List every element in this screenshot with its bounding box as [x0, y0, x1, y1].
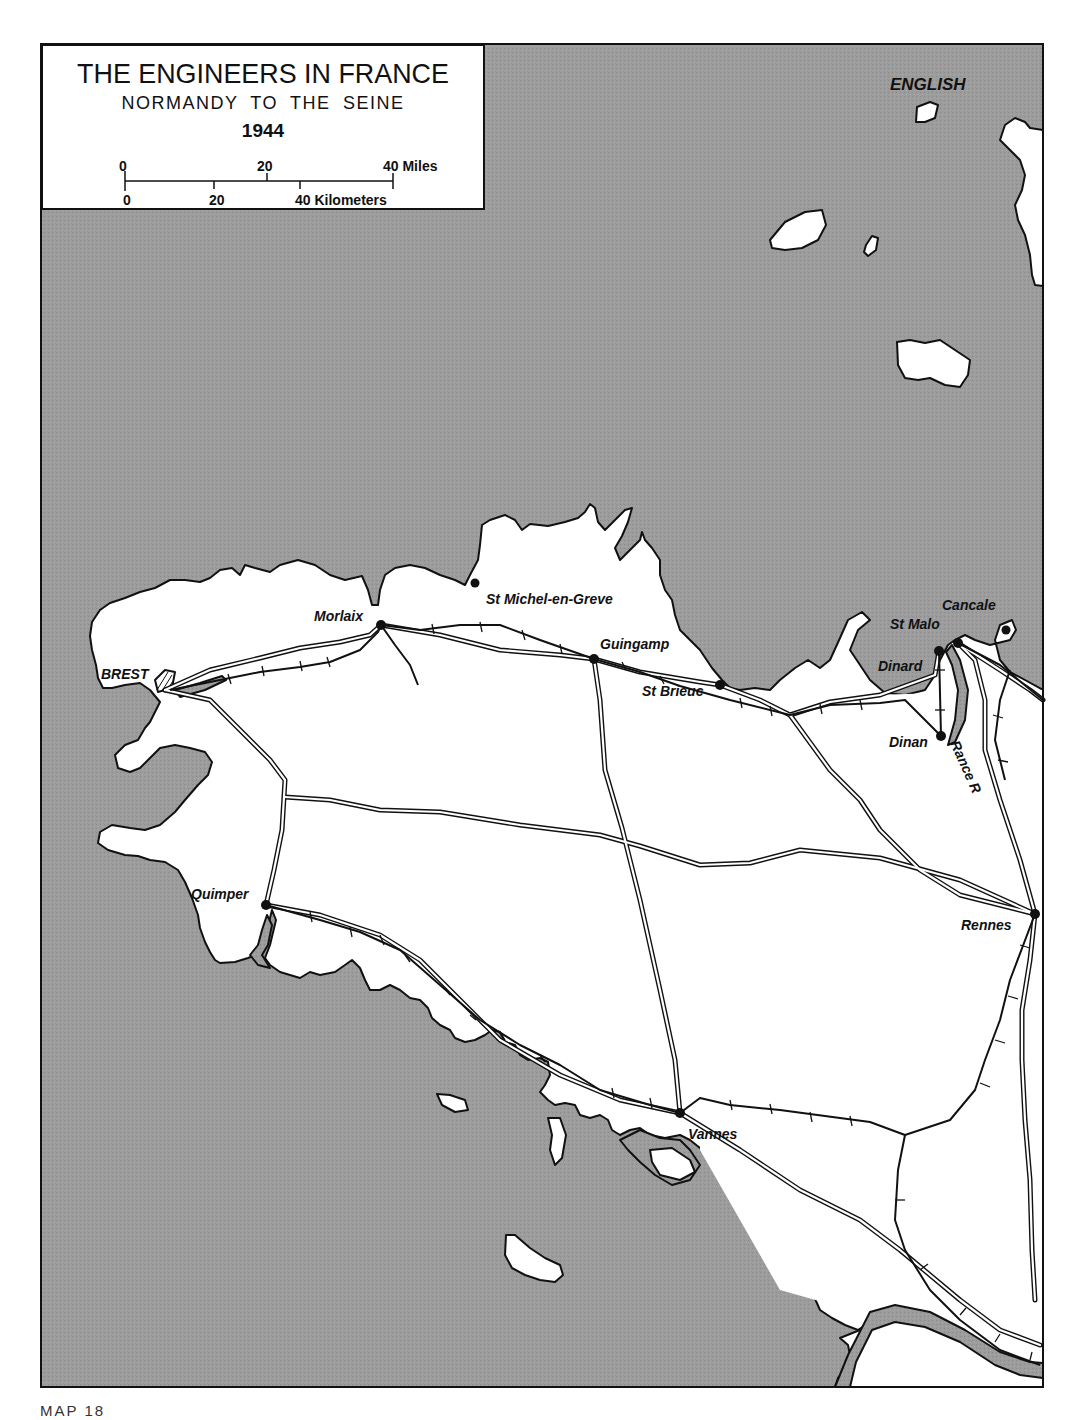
city-label-guingamp: Guingamp [600, 636, 669, 652]
city-dot-st-malo [953, 638, 963, 648]
city-dot-dinard [934, 646, 944, 656]
city-dot-guingamp [589, 654, 599, 664]
city-label-morlaix: Morlaix [314, 608, 363, 624]
city-dot-dinan [936, 731, 946, 741]
scale-km-20: 20 [209, 192, 225, 208]
city-label-dinard: Dinard [878, 658, 922, 674]
city-label-quimper: Quimper [191, 886, 249, 902]
sea-label-english: ENGLISH [890, 75, 966, 95]
map-canvas [0, 0, 1084, 1420]
city-label-st-malo: St Malo [890, 616, 940, 632]
scale-miles-40: 40 Miles [383, 158, 437, 174]
city-label-st-brieuc: St Brieuc [642, 683, 703, 699]
scale-miles-20: 20 [257, 158, 273, 174]
city-label-brest: BREST [101, 666, 148, 682]
map-caption: MAP 18 [40, 1402, 105, 1419]
city-label-dinan: Dinan [889, 734, 928, 750]
scale-bar [43, 46, 487, 212]
city-label-st-michel-en-greve: St Michel-en-Greve [486, 591, 613, 607]
city-label-cancale: Cancale [942, 597, 996, 613]
title-box: THE ENGINEERS IN FRANCE NORMANDY TO THE … [41, 44, 485, 210]
city-dot-cancale [1002, 626, 1011, 635]
city-label-rennes: Rennes [961, 917, 1012, 933]
city-label-vannes: Vannes [688, 1126, 737, 1142]
scale-km-0: 0 [123, 192, 131, 208]
scale-km-40: 40 Kilometers [295, 192, 387, 208]
city-dot-quimper [261, 900, 271, 910]
city-dot-vannes [675, 1108, 685, 1118]
city-dot-st-michel [471, 579, 480, 588]
city-dot-st-brieuc [715, 680, 725, 690]
scale-miles-0: 0 [119, 158, 127, 174]
city-dot-rennes [1030, 909, 1040, 919]
city-dot-morlaix [376, 620, 386, 630]
